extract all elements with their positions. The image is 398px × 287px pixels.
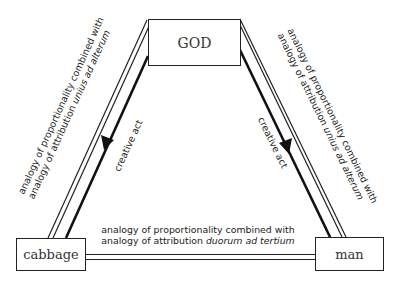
god-label: GOD: [178, 35, 212, 51]
bottom-edge-label: analogy of proportionality combined with…: [98, 224, 298, 246]
god-node: GOD: [148, 19, 241, 66]
cabbage-node: cabbage: [16, 238, 86, 271]
man-node: man: [315, 237, 384, 271]
cabbage-label: cabbage: [23, 247, 78, 262]
bottom-edge-line2: analogy of attribution duorum ad tertium: [98, 235, 298, 246]
bottom-edge-latin: duorum ad tertium: [206, 235, 295, 246]
bottom-edge-line1: analogy of proportionality combined with: [98, 224, 298, 235]
man-label: man: [335, 247, 363, 262]
